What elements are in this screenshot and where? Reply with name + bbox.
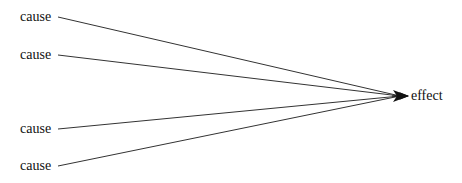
cause-line-3 — [58, 96, 400, 129]
cause-line-4 — [58, 96, 400, 166]
cause-label-1: cause — [20, 9, 51, 25]
cause-effect-diagram: cause cause cause cause effect — [0, 0, 462, 183]
cause-label-2: cause — [20, 47, 51, 63]
effect-label: effect — [411, 88, 443, 104]
cause-label-4: cause — [20, 158, 51, 174]
cause-label-3: cause — [20, 121, 51, 137]
cause-line-1 — [58, 17, 400, 96]
cause-line-2 — [58, 55, 400, 96]
connector-lines — [0, 0, 462, 183]
